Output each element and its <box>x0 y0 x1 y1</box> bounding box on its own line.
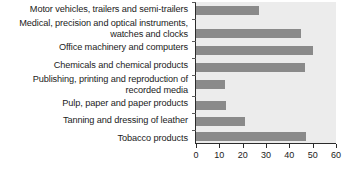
x-axis-tick-label: 0 <box>186 150 206 161</box>
y-axis-tick <box>192 96 196 97</box>
bar-tanning-leather <box>196 117 245 126</box>
category-label-chemicals: Chemicals and chemical products <box>54 60 188 71</box>
bar-office-machinery <box>196 46 313 55</box>
x-axis-tick-label: 50 <box>303 150 323 161</box>
y-axis-tick <box>192 41 196 42</box>
x-axis-tick <box>243 144 244 148</box>
category-label-pulp-paper: Pulp, paper and paper products <box>62 98 188 109</box>
x-axis-tick-label: 60 <box>326 150 342 161</box>
x-axis-tick <box>336 144 337 148</box>
bar-medical-instruments <box>196 29 301 38</box>
category-label-medical-instruments: Medical, precision and optical instrumen… <box>19 18 188 39</box>
category-label-office-machinery: Office machinery and computers <box>59 42 188 53</box>
x-axis-tick <box>313 144 314 148</box>
bar-tobacco <box>196 132 306 141</box>
y-axis-tick <box>192 58 196 59</box>
y-axis-tick <box>192 75 196 76</box>
x-axis-tick <box>289 144 290 148</box>
bar-pulp-paper <box>196 101 226 110</box>
x-axis-tick-label: 20 <box>233 150 253 161</box>
bar-publishing-printing <box>196 80 225 89</box>
x-axis-tick-label: 40 <box>279 150 299 161</box>
category-label-tanning-leather: Tanning and dressing of leather <box>63 115 188 126</box>
x-axis-tick-label: 30 <box>256 150 276 161</box>
category-label-motor-vehicles: Motor vehicles, trailers and semi-traile… <box>30 4 188 15</box>
bar-chemicals <box>196 63 305 72</box>
bar-motor-vehicles <box>196 6 259 15</box>
y-axis-tick <box>192 113 196 114</box>
bar-chart: Motor vehicles, trailers and semi-traile… <box>0 0 342 169</box>
category-label-tobacco: Tobacco products <box>118 133 188 144</box>
y-axis-tick <box>192 130 196 131</box>
y-axis-tick <box>192 19 196 20</box>
category-label-publishing-printing: Publishing, printing and reproduction of… <box>33 74 188 95</box>
x-axis-tick <box>266 144 267 148</box>
category-label-column: Motor vehicles, trailers and semi-traile… <box>0 0 192 143</box>
x-axis-tick-label: 10 <box>209 150 229 161</box>
x-axis-tick <box>219 144 220 148</box>
x-axis-tick <box>196 144 197 148</box>
y-axis-tick <box>192 2 196 3</box>
